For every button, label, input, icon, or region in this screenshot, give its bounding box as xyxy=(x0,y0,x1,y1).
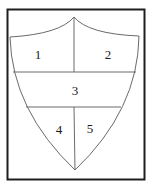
region-label-3: 3 xyxy=(72,83,79,98)
region-label-5: 5 xyxy=(87,121,94,136)
shield-diagram: 1 2 3 4 5 xyxy=(0,0,154,194)
region-label-4: 4 xyxy=(56,122,63,137)
region-label-2: 2 xyxy=(105,47,112,62)
region-label-1: 1 xyxy=(35,47,42,62)
